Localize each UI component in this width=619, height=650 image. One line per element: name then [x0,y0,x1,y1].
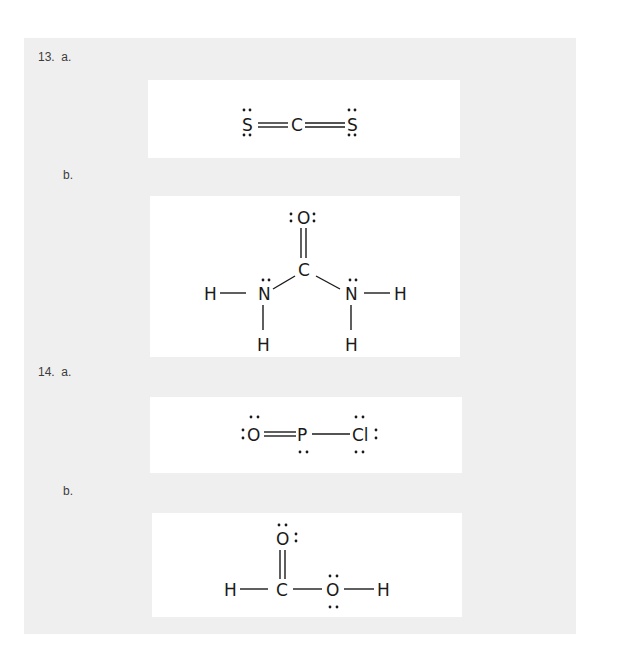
atom-c-center: C [291,115,303,135]
problem-14b-label: b. [63,484,73,498]
lewis-structure-opcl: O P Cl [150,397,462,473]
atom-n-left: N [258,284,271,304]
atom-o-top: O [297,208,310,228]
structure-box-14b: O H C O H [152,513,462,617]
atom-h-right: H [377,580,390,600]
atom-h-bottom-right: H [345,335,358,355]
problem-13-label: 13. a. [38,50,71,64]
atom-h-bottom-left: H [257,335,270,355]
atom-h-left: H [204,284,217,304]
lewis-structure-formic-acid: O H C O H [152,513,462,617]
atom-c-center: C [276,580,288,600]
atom-o-right: O [326,580,339,600]
problem-13b-label: b. [63,168,73,182]
problem-14-label: 14. a. [38,365,71,379]
atom-p-center: P [297,425,307,445]
lewis-structure-urea: O C N N H H H H [150,196,460,357]
structure-box-14a: O P Cl [150,397,462,473]
lewis-structure-cs2: S C S [148,80,460,158]
structure-box-13b: O C N N H H H H [150,196,460,357]
atom-cl-right: Cl [352,425,369,445]
atom-s-right: S [347,115,358,135]
atom-s-left: S [242,115,253,135]
structure-box-13a: S C S [148,80,460,158]
atom-c-center: C [298,260,310,280]
atom-h-right: H [394,284,407,304]
atom-n-right: N [345,284,358,304]
atom-h-left: H [224,580,237,600]
atom-o-left: O [247,425,260,445]
atom-o-top: O [276,529,289,549]
